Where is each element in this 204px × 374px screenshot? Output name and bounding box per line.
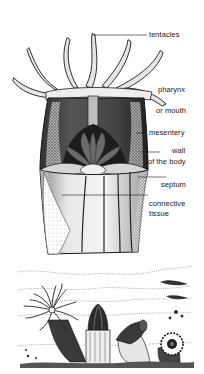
label-of-the-body: of the body <box>148 157 186 166</box>
label-tissue: tissue <box>149 209 169 218</box>
anemone-open <box>24 284 86 362</box>
label-tentacles: tentacles <box>149 30 179 39</box>
label-connective: connective <box>149 199 185 208</box>
label-pharynx: pharynx <box>158 85 185 94</box>
label-mesentery: mesentery <box>149 128 184 137</box>
anemone-figure: tentacles pharynx or mouth mesentery wal… <box>0 0 204 374</box>
anemone-ring <box>158 333 183 366</box>
label-wall: wall <box>172 146 185 155</box>
pharynx-tube <box>88 96 98 126</box>
anemone-closed <box>86 304 110 364</box>
seabed-scene <box>18 266 194 368</box>
label-septum: septum <box>161 180 186 189</box>
anemone-tilted <box>116 320 150 364</box>
label-or-mouth: or mouth <box>156 106 186 115</box>
